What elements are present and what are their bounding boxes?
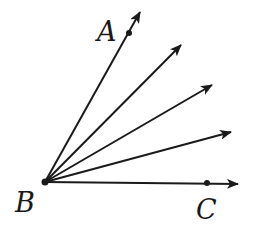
vertex-point-B [42, 179, 49, 186]
ray-2 [45, 45, 181, 182]
ray-BA [45, 12, 140, 182]
ray-3 [45, 85, 212, 182]
point-C [204, 180, 210, 186]
rays [45, 12, 238, 184]
labels: A B C [14, 16, 217, 225]
point-A [126, 30, 132, 36]
label-B: B [14, 187, 35, 218]
label-A: A [94, 16, 117, 47]
ray-4 [45, 132, 231, 182]
angle-diagram: A B C [0, 0, 254, 228]
points [42, 30, 211, 186]
label-C: C [196, 194, 217, 225]
